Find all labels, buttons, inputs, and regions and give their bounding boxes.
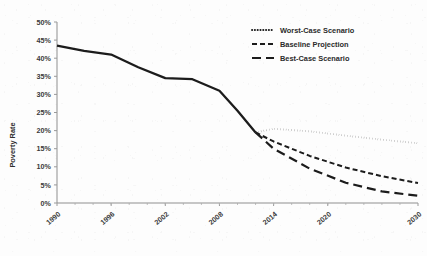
- y-tick-label: 10%: [37, 162, 52, 171]
- y-axis-title: Poverty Rate: [8, 122, 17, 167]
- x-axis-ticks: 1990199620022008201420202030: [44, 203, 423, 227]
- y-tick-label: 45%: [37, 36, 52, 45]
- poverty-rate-chart: Poverty Rate 0%5%10%15%20%25%30%35%40%45…: [0, 0, 427, 256]
- x-tick-label: 1990: [44, 210, 62, 227]
- y-tick-label: 0%: [41, 199, 52, 208]
- y-tick-label: 50%: [37, 18, 52, 27]
- x-tick-label: 2020: [315, 210, 333, 227]
- series-line-baseline-projection: [256, 132, 418, 183]
- data-series-group: [57, 46, 418, 196]
- y-tick-label: 40%: [37, 54, 52, 63]
- y-tick-label: 30%: [37, 90, 52, 99]
- x-tick-label: 2030: [405, 210, 423, 227]
- y-tick-label: 15%: [37, 144, 52, 153]
- x-tick-label: 1996: [98, 210, 116, 227]
- x-tick-label: 2014: [261, 210, 279, 227]
- legend-label: Baseline Projection: [280, 40, 349, 49]
- y-axis-ticks: 0%5%10%15%20%25%30%35%40%45%50%: [37, 18, 57, 208]
- y-tick-label: 5%: [41, 181, 52, 190]
- y-tick-label: 35%: [37, 72, 52, 81]
- series-line-historical: [57, 46, 256, 133]
- y-tick-label: 25%: [37, 108, 52, 117]
- chart-legend: Worst-Case ScenarioBaseline ProjectionBe…: [252, 26, 355, 63]
- series-line-best-case-scenario: [256, 132, 418, 195]
- chart-plot-area: Poverty Rate 0%5%10%15%20%25%30%35%40%45…: [0, 0, 427, 256]
- series-line-worst-case-scenario: [256, 129, 418, 143]
- legend-label: Best-Case Scenario: [280, 54, 350, 63]
- x-tick-label: 2002: [153, 210, 171, 227]
- y-tick-label: 20%: [37, 126, 52, 135]
- x-tick-label: 2008: [207, 210, 225, 227]
- legend-label: Worst-Case Scenario: [280, 26, 355, 35]
